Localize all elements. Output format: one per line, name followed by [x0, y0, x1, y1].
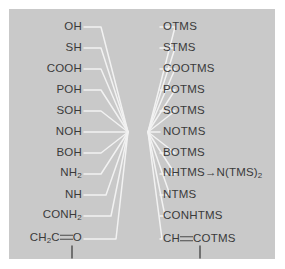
product-text-ch: CH [163, 232, 180, 244]
product-text-notms: NOTMS [163, 125, 206, 137]
product-text-stms: STMS [163, 41, 196, 53]
reactant-text-c: C [51, 231, 60, 243]
reactant-label-conh2: CONH2 [0, 209, 82, 224]
reactant-label-sh: SH [0, 42, 82, 54]
product-label-stms: STMS [163, 42, 196, 54]
product-text-potms: POTMS [163, 83, 205, 95]
product-label-cootms: COOTMS [163, 63, 215, 75]
subscript-2: 2 [77, 171, 82, 180]
product-text-conhtms: CONHTMS [163, 209, 223, 221]
reactant-label-oh: OH [0, 21, 82, 33]
reactant-text-ch: CH [30, 231, 47, 243]
double-bond-icon [60, 233, 73, 242]
arrow-icon: → [205, 166, 217, 178]
reactant-text-nh: NH [65, 188, 82, 200]
product-label-sotms: SOTMS [163, 105, 205, 117]
product-text-botms: BOTMS [163, 146, 205, 158]
product-label-otms: OTMS [163, 21, 197, 33]
reactant-text-poh: POH [56, 83, 82, 95]
reactant-text-o: O [73, 231, 82, 243]
product-text-otms: OTMS [163, 20, 197, 32]
reactant-label-soh: SOH [0, 105, 82, 117]
product-label-potms: POTMS [163, 84, 205, 96]
reactant-text-boh: BOH [56, 146, 82, 158]
subscript-2: 2 [77, 213, 82, 222]
reactant-text-sh: SH [66, 41, 82, 53]
reactant-text-nh2: NH [60, 166, 77, 178]
product-text-cootms: COOTMS [163, 62, 215, 74]
product-text-sotms: SOTMS [163, 104, 205, 116]
subscript-2: 2 [258, 171, 263, 180]
reactant-label-nh: NH [0, 189, 82, 201]
reactant-text-cooh: COOH [47, 62, 82, 74]
product-text-nhtms: NHTMS [163, 166, 205, 178]
product-label-botms: BOTMS [163, 147, 205, 159]
product-label-ntms: NTMS [163, 189, 196, 201]
reactant-text-conh2: CONH [43, 208, 78, 220]
reactant-text-oh: OH [64, 20, 82, 32]
product-label-notms: NOTMS [163, 126, 206, 138]
reactant-label-cooh: COOH [0, 63, 82, 75]
reactant-label-noh: NOH [0, 126, 82, 138]
double-bond-icon [180, 235, 193, 244]
reactant-text-noh: NOH [56, 125, 82, 137]
reactant-text-soh: SOH [56, 104, 82, 116]
product-text-ntms2: N(TMS) [216, 166, 257, 178]
reactant-label-nh2: NH2 [0, 167, 82, 182]
reactant-label-poh: POH [0, 84, 82, 96]
product-label-conhtms: CONHTMS [163, 210, 223, 222]
product-text-ntms: NTMS [163, 188, 196, 200]
reactant-label-ketone: CH2CO [0, 232, 82, 247]
derivatization-diagram: OH SH COOH POH SOH NOH BOH NH2 NH CONH2 … [0, 0, 285, 269]
product-label-enol-ether: CHCOTMS [163, 233, 236, 245]
reactant-label-boh: BOH [0, 147, 82, 159]
product-text-cotms: COTMS [193, 232, 236, 244]
product-label-nhtms: NHTMS→N(TMS)2 [163, 167, 263, 182]
